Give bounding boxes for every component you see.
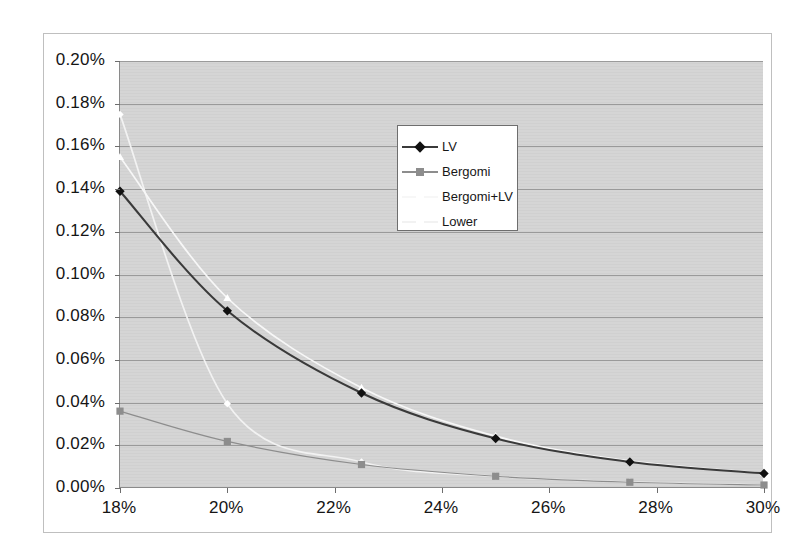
chart-frame: 0.20%0.18%0.16%0.14%0.12%0.10%0.08%0.06%… [43,33,772,533]
chart-legend: LVBergomiBergomi+LVLower [397,125,518,231]
legend-key-icon [398,165,442,179]
legend-marker-swatch [414,141,425,152]
y-axis-tick-label: 0.16% [35,135,105,155]
y-axis-tick-label: 0.08% [35,306,105,326]
legend-item-label: Bergomi+LV [442,189,513,204]
x-axis-tick-label: 28% [624,498,688,518]
data-point-marker [116,153,124,160]
y-axis-tick [115,488,120,489]
x-axis-tick-label: 20% [194,498,258,518]
y-axis-tick-label: 0.20% [35,50,105,70]
legend-marker-swatch [416,168,424,176]
x-axis-tick [442,488,443,493]
legend-key-icon [398,190,442,204]
data-point-marker [625,457,634,466]
y-axis-tick [115,403,120,404]
x-axis-tick [227,488,228,493]
data-point-marker [626,479,633,486]
data-point-marker [358,461,365,468]
y-axis-tick-label: 0.06% [35,349,105,369]
y-axis-tick [115,61,120,62]
y-axis-tick [115,104,120,105]
y-axis-tick [115,189,120,190]
data-point-marker [116,408,123,415]
x-axis-tick [120,488,121,493]
y-axis-tick-label: 0.14% [35,178,105,198]
legend-key-icon [398,215,442,229]
x-axis-tick-label: 24% [409,498,473,518]
y-axis-tick [115,146,120,147]
legend-marker-swatch [416,193,424,201]
legend-item-label: LV [442,139,457,154]
x-axis-tick-label: 22% [302,498,366,518]
y-axis-tick-label: 0.10% [35,264,105,284]
data-point-marker [116,111,123,118]
x-axis-tick-label: 30% [731,498,795,518]
x-axis-tick [335,488,336,493]
legend-item-bergomi-plus-lv: Bergomi+LV [398,184,517,209]
x-axis-tick [549,488,550,493]
y-axis-tick [115,445,120,446]
legend-item-bergomi: Bergomi [398,159,517,184]
y-axis-tick [115,360,120,361]
legend-item-lower: Lower [398,209,517,234]
y-axis-tick-label: 0.12% [35,221,105,241]
y-axis-tick-label: 0.04% [35,392,105,412]
x-axis-tick-label: 26% [516,498,580,518]
legend-key-icon [398,140,442,154]
y-axis-tick [115,275,120,276]
data-point-marker [759,469,768,478]
x-axis-tick [657,488,658,493]
data-point-marker [492,473,499,480]
legend-item-label: Lower [442,214,477,229]
x-axis-tick-label: 18% [87,498,151,518]
legend-item-lv: LV [398,134,517,159]
y-axis-tick-label: 0.18% [35,93,105,113]
legend-item-label: Bergomi [442,164,490,179]
y-axis-tick-label: 0.02% [35,434,105,454]
legend-marker-swatch [416,218,424,226]
x-axis-tick [764,488,765,493]
data-point-marker [224,438,231,445]
y-axis-tick-label: 0.00% [35,477,105,497]
y-axis-tick [115,317,120,318]
y-axis-tick [115,232,120,233]
